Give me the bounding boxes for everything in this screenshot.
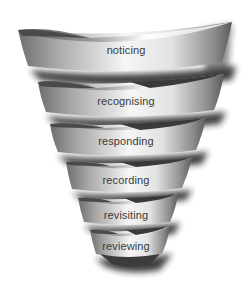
stage-label-revisiting: revisiting	[0, 209, 252, 221]
stage-label-reviewing: reviewing	[0, 240, 252, 252]
stage-label-noticing: noticing	[0, 44, 252, 56]
stage-label-recognising: recognising	[0, 95, 252, 107]
stage-label-responding: responding	[0, 135, 252, 147]
funnel-diagram: noticing recognising responding recordin…	[0, 0, 252, 288]
stage-label-recording: recording	[0, 174, 252, 186]
